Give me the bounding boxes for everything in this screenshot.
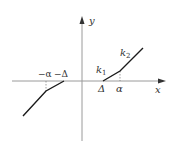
tick-label-pos-alpha: α — [116, 84, 123, 94]
slope-k2-sub: 2 — [126, 52, 130, 60]
slope-label-k1: k1 — [96, 65, 107, 77]
x-axis-arrow-icon — [158, 79, 166, 84]
curve-left-branch — [23, 81, 64, 116]
slope-k1-sub: 1 — [102, 69, 106, 77]
y-axis-label: y — [89, 16, 95, 26]
slope-label-k2: k2 — [120, 48, 131, 60]
x-axis-label: x — [155, 85, 161, 95]
tick-label-pos-delta: Δ — [98, 84, 105, 94]
diagram-svg — [0, 0, 175, 149]
tick-label-neg-delta: −Δ — [54, 70, 68, 79]
tick-label-neg-alpha: −α — [38, 70, 52, 79]
y-axis-arrow-icon — [80, 16, 85, 24]
diagram-canvas: y x −α −Δ Δ α k1 k2 — [0, 0, 175, 149]
